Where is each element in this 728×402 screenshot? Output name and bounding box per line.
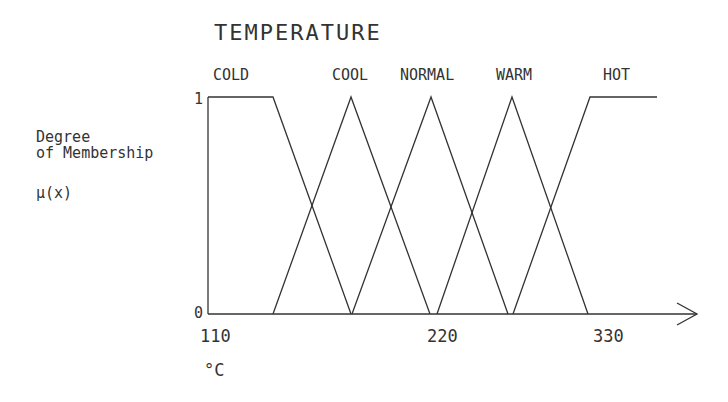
curve-normal [352,97,508,314]
curve-cold [208,97,351,314]
curve-warm [437,97,588,314]
membership-plot [0,0,728,402]
curve-hot [513,97,657,314]
fuzzy-membership-chart: TEMPERATURE COLD COOL NORMAL WARM HOT De… [0,0,728,402]
curve-cool [273,97,430,314]
